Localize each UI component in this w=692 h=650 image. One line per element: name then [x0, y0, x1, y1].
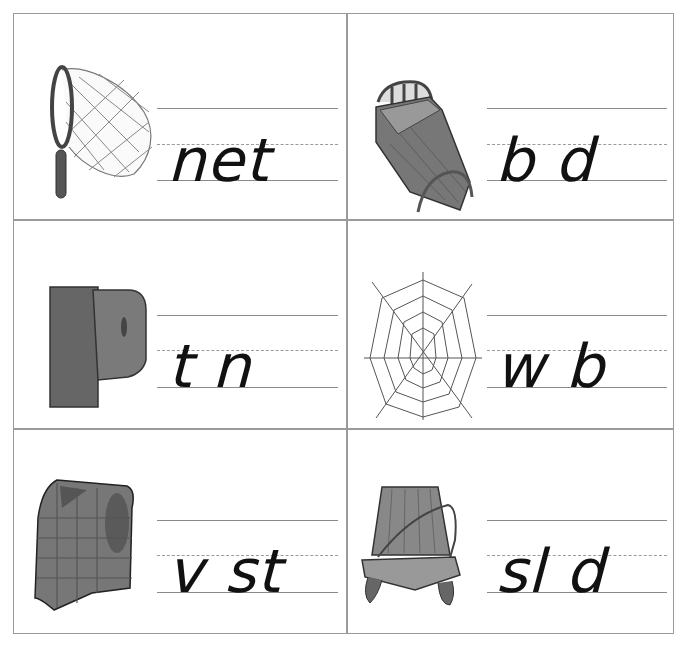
butterfly-net-icon: [44, 62, 159, 202]
top-guide-line: [157, 520, 338, 521]
vest-icon: [32, 478, 137, 613]
row-divider-1: [13, 219, 674, 221]
word-text: sl d: [498, 541, 611, 601]
spider-web-icon: [364, 272, 482, 420]
letter-p-block-icon: [48, 285, 148, 415]
top-guide-line: [487, 520, 667, 521]
word-text: net: [170, 130, 276, 190]
column-divider: [346, 13, 348, 634]
top-guide-line: [487, 315, 667, 316]
word-text: v st: [170, 541, 288, 601]
sled-icon: [360, 485, 470, 610]
bed-icon: [370, 72, 480, 217]
top-guide-line: [157, 108, 338, 109]
row-divider-2: [13, 428, 674, 430]
word-text: w b: [498, 336, 611, 396]
top-guide-line: [487, 108, 667, 109]
word-text: t n: [170, 336, 258, 396]
top-guide-line: [157, 315, 338, 316]
word-text: b d: [498, 130, 600, 190]
